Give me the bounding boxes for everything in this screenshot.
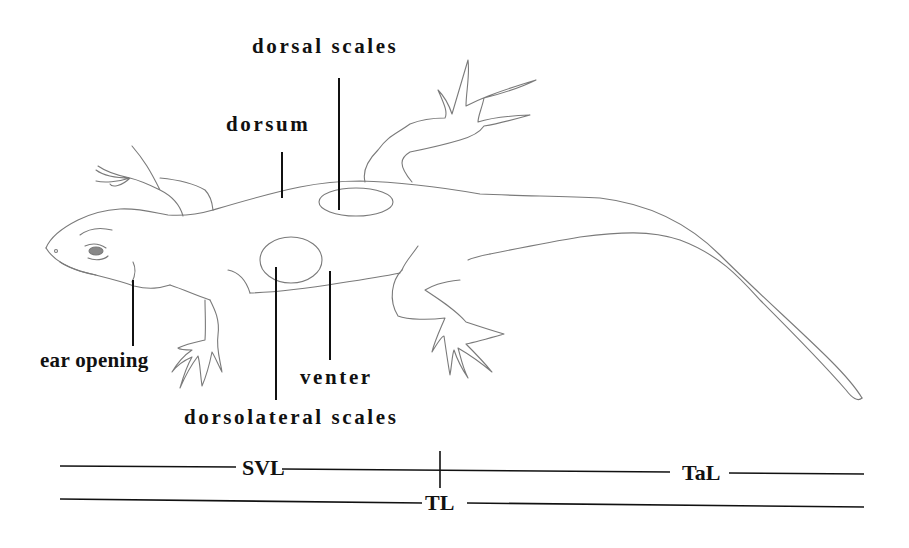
svl-line-left [60, 466, 236, 467]
label-dorsolateral-scales: dorsolateral scales [184, 407, 398, 428]
label-dorsal-scales: dorsal scales [252, 36, 398, 57]
label-ear-opening: ear opening [40, 350, 149, 371]
lizard-diagram: dorsal scales dorsum ear opening venter … [0, 0, 909, 548]
label-dorsum: dorsum [226, 114, 310, 135]
tl-line-right [467, 503, 864, 507]
label-svl: SVL [240, 457, 287, 479]
hind-limb-upper [364, 60, 536, 182]
dorsal-scales-region [319, 188, 393, 216]
front-limb-upper [96, 146, 213, 216]
label-tl: TL [423, 492, 456, 514]
svl-tal-line [282, 469, 670, 472]
tl-line-left [60, 499, 422, 503]
hind-limb-lower [392, 270, 504, 378]
dorsolateral-scales-region [260, 237, 322, 283]
lizard-body [170, 181, 862, 400]
lizard-head [46, 209, 213, 288]
label-tal: TaL [680, 462, 722, 484]
tal-line-right [729, 473, 864, 474]
lizard-drawing [0, 0, 909, 548]
label-venter: venter [300, 367, 373, 388]
front-limb-lower [172, 270, 250, 388]
